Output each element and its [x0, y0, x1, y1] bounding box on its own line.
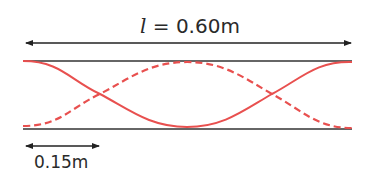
solid-wave-curve [23, 61, 352, 127]
dashed-wave-curve [23, 62, 352, 128]
length-equals: = [146, 14, 175, 38]
length-value: 0.60m [176, 14, 240, 38]
length-label: l = 0.60m [140, 14, 240, 38]
standing-wave-diagram: l = 0.60m 0.15m [0, 0, 379, 180]
segment-label: 0.15m [34, 152, 88, 172]
